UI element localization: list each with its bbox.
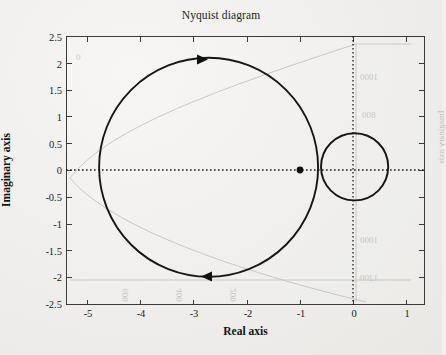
- y-tick-label: 2: [57, 59, 62, 70]
- x-tick-label: -1: [297, 308, 306, 319]
- y-tick-label: -1.5: [45, 246, 62, 257]
- bleed-through-curves: [70, 44, 411, 302]
- x-tick-label: 0: [351, 308, 356, 319]
- y-tick-label: 1.5: [49, 85, 62, 96]
- bleed-through-text: Imaginary axis: [436, 110, 446, 164]
- y-tick-label: -0.5: [45, 192, 62, 203]
- y-tick-label: 0: [57, 165, 62, 176]
- y-tick-label: -2: [53, 272, 62, 283]
- y-tick-label: -1: [53, 219, 62, 230]
- critical-point-marker: [297, 167, 304, 174]
- x-axis-title: Real axis: [66, 325, 425, 337]
- x-tick-label: -5: [84, 308, 93, 319]
- y-tick-label: -2.5: [45, 299, 62, 310]
- y-tick-label: 0.5: [49, 139, 62, 150]
- nyquist-plot-canvas: [66, 36, 425, 305]
- x-tick-label: -3: [190, 308, 199, 319]
- y-axis-title: Imaginary axis: [0, 133, 12, 207]
- x-tick-label: 1: [404, 308, 409, 319]
- x-tick-label: -4: [137, 308, 146, 319]
- y-tick-label: 2.5: [49, 32, 62, 43]
- y-tick-label: 1: [57, 112, 62, 123]
- x-tick-label: -2: [244, 308, 253, 319]
- nyquist-small-loop: [321, 133, 388, 200]
- direction-arrow-top: [197, 55, 208, 65]
- chart-title: Nyquist diagram: [0, 9, 442, 21]
- nyquist-large-loop: [99, 58, 318, 277]
